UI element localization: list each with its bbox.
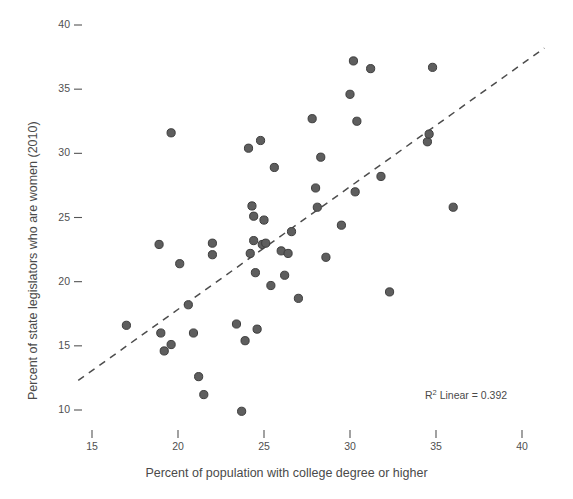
x-tick-label: 30 — [330, 440, 370, 452]
scatter-chart: 15202530354010152025303540 Percent of st… — [0, 0, 573, 499]
x-tick-label: 25 — [244, 440, 284, 452]
x-tick-label: 15 — [72, 440, 112, 452]
x-axis-title: Percent of population with college degre… — [0, 466, 573, 480]
y-tick-label: 10 — [34, 403, 70, 415]
r2-symbol: R — [425, 389, 433, 401]
x-tick-label: 35 — [416, 440, 456, 452]
y-axis-title: Percent of state legislators who are wom… — [26, 121, 40, 400]
trendline — [78, 48, 544, 380]
x-tick-label: 20 — [158, 440, 198, 452]
data-points — [122, 57, 457, 416]
plot-area — [0, 0, 573, 499]
x-tick-label: 40 — [502, 440, 542, 452]
y-tick-label: 40 — [34, 18, 70, 30]
r-squared-annotation: R2 Linear = 0.392 — [425, 389, 507, 401]
axis-ticks — [74, 25, 522, 438]
r2-value-text: Linear = 0.392 — [437, 389, 507, 401]
y-tick-label: 35 — [34, 82, 70, 94]
